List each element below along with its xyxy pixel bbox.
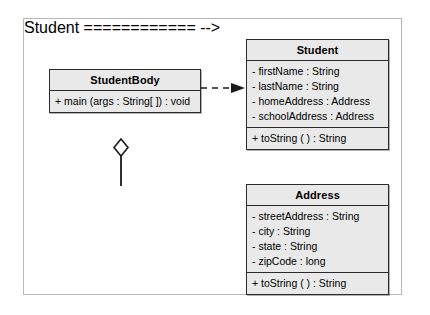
uml-method: + main (args : String[ ]) : void <box>50 94 200 109</box>
uml-attribute: - firstName : String <box>247 64 388 79</box>
uml-class-name-address: Address <box>247 185 388 206</box>
aggregation-link-student-to-address <box>108 138 134 186</box>
uml-methods-studentbody: + main (args : String[ ]) : void <box>50 91 200 112</box>
uml-method: + toString ( ) : String <box>247 131 388 146</box>
dependency-arrow-studentbody-to-student <box>201 82 246 94</box>
uml-attribute: - lastName : String <box>247 79 388 94</box>
uml-attributes-address: - streetAddress : String - city : String… <box>247 206 388 272</box>
uml-attribute: - streetAddress : String <box>247 209 388 224</box>
uml-class-name-studentbody: StudentBody <box>50 70 200 91</box>
uml-class-studentbody[interactable]: StudentBody + main (args : String[ ]) : … <box>49 69 201 113</box>
uml-attribute: - zipCode : long <box>247 254 388 269</box>
uml-method: + toString ( ) : String <box>247 276 388 291</box>
dependency-filled-arrowhead <box>231 83 245 93</box>
uml-attribute: - state : String <box>247 239 388 254</box>
uml-class-address[interactable]: Address - streetAddress : String - city … <box>246 184 389 295</box>
aggregation-hollow-diamond <box>114 139 128 156</box>
uml-attributes-student: - firstName : String - lastName : String… <box>247 61 388 127</box>
uml-methods-student: + toString ( ) : String <box>247 127 388 149</box>
uml-class-student[interactable]: Student - firstName : String - lastName … <box>246 39 389 150</box>
uml-class-name-student: Student <box>247 40 388 61</box>
uml-attribute: - city : String <box>247 224 388 239</box>
uml-attribute: - schoolAddress : Address <box>247 109 388 124</box>
diagram-frame: StudentBody + main (args : String[ ]) : … <box>23 18 402 295</box>
uml-methods-address: + toString ( ) : String <box>247 272 388 294</box>
uml-attribute: - homeAddress : Address <box>247 94 388 109</box>
